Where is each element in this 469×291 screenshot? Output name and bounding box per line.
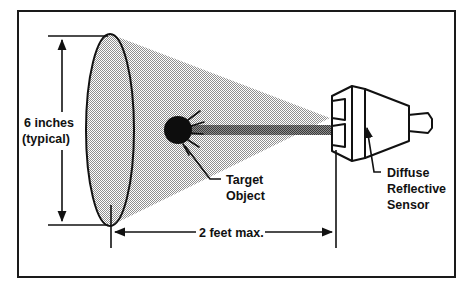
diffuse-reflective-sensor-figure: 6 inches (typical) 2 feet max. Target Ob… xyxy=(0,0,469,291)
target-object-label-line2: Object xyxy=(226,189,266,203)
height-dimension-line1: 6 inches xyxy=(24,116,74,130)
sensor-label-line2: Reflective xyxy=(387,182,446,196)
sensor-body-side xyxy=(365,89,409,158)
distance-dimension-label: 2 feet max. xyxy=(199,226,264,240)
sensor-diagram-canvas: 6 inches (typical) 2 feet max. Target Ob… xyxy=(0,0,469,291)
diffuse-reflective-sensor-body xyxy=(332,86,432,161)
cone-base-ellipse xyxy=(86,34,134,226)
target-object-dot xyxy=(164,116,192,144)
sensor-connector-stub xyxy=(408,113,432,133)
sensor-lens-upper xyxy=(332,99,345,120)
sensor-label-line3: Sensor xyxy=(387,198,430,212)
sensor-label-line1: Diffuse xyxy=(387,166,429,180)
sensor-front-block xyxy=(332,86,365,161)
sensor-lens-lower xyxy=(332,124,345,147)
target-object-label-line1: Target xyxy=(226,173,264,187)
height-dimension-line2: (typical) xyxy=(22,132,70,146)
